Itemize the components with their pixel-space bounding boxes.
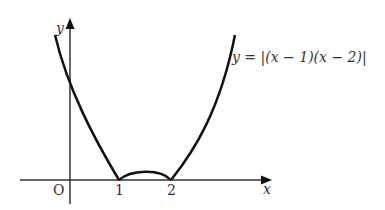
tick-label-1: 1: [115, 182, 124, 198]
origin-label: O: [53, 182, 64, 198]
curve-bump: [119, 172, 171, 180]
y-axis-label: y: [55, 20, 65, 36]
function-graph: y x O 1 2 y = |(x − 1)(x − 2)|: [0, 0, 385, 210]
y-axis-arrow-icon: [66, 18, 75, 29]
curve-right-branch: [171, 35, 235, 180]
tick-label-2: 2: [167, 182, 176, 198]
x-axis-label: x: [263, 181, 271, 197]
curve-left-branch: [55, 35, 119, 180]
equation-label: y = |(x − 1)(x − 2)|: [231, 49, 367, 66]
